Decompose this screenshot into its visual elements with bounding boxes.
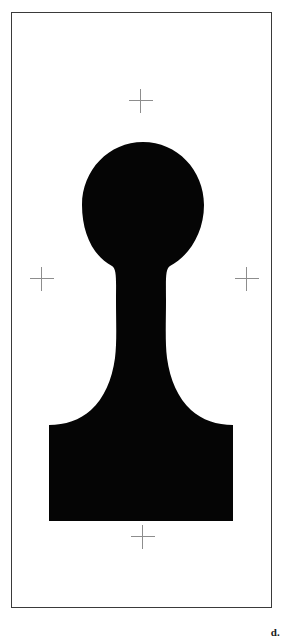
pawn-silhouette-shape	[49, 142, 233, 521]
plate-frame	[11, 12, 272, 608]
figure-plate: d.	[0, 0, 284, 640]
figure-label: d.	[271, 627, 280, 638]
silhouette-graphic	[12, 13, 271, 607]
plate-field	[12, 13, 271, 607]
